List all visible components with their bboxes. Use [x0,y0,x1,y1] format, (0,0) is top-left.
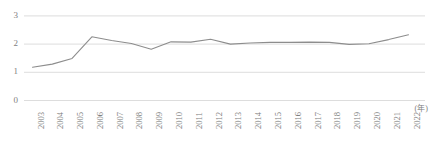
x-axis-tick-label: 2022 [413,112,422,129]
x-axis-tick-label: 2004 [56,112,65,129]
x-axis-tick-label: 2007 [116,112,125,129]
y-axis-tick-label: 3 [2,11,18,20]
x-axis-tick-label: 2017 [314,112,323,129]
x-axis-tick-label: 2008 [135,112,144,129]
y-axis-tick-label: 0 [2,96,18,105]
x-axis-tick-label: 2011 [195,112,204,129]
series-polyline [33,35,409,67]
y-axis-tick-label: 1 [2,67,18,76]
x-axis-tick-label: 2005 [76,112,85,129]
x-axis-tick-label: 2006 [96,112,105,129]
x-axis-tick-label: 2015 [274,112,283,129]
x-axis-tick-label: 2013 [234,112,243,129]
gridlines [24,16,425,101]
x-axis-tick-label: 2021 [393,112,402,129]
x-axis-tick-label: 2010 [175,112,184,129]
x-axis-tick-label: 2009 [155,112,164,129]
line-chart: 3210 20032004200520062007200820092010201… [0,0,434,145]
x-axis-tick-label: 2014 [254,112,263,129]
x-axis-tick-label: 2012 [215,112,224,129]
x-axis-unit-label: (年) [415,105,428,113]
x-axis-tick-label: 2018 [333,112,342,129]
x-axis-tick-label: 2003 [37,112,46,129]
x-axis-tick-label: 2016 [294,112,303,129]
x-axis-tick-label: 2020 [373,112,382,129]
x-axis-tick-label: 2019 [353,112,362,129]
data-series-line [33,35,409,67]
figure-caption [0,138,434,145]
y-axis-tick-label: 2 [2,39,18,48]
